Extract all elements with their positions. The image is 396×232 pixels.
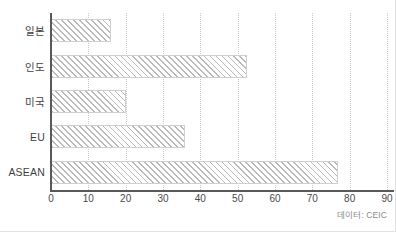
bars-layer [51, 13, 387, 190]
value-tick-label: 20 [120, 193, 131, 204]
category-label: 미국 [0, 84, 45, 119]
gridline [387, 13, 388, 190]
bar [51, 161, 338, 184]
bar [51, 19, 111, 42]
category-label: 인도 [0, 48, 45, 83]
category-label: ASEAN [0, 155, 45, 190]
bar-row [51, 84, 387, 119]
bar-row [51, 13, 387, 48]
value-tick-label: 90 [381, 193, 392, 204]
value-tick-label: 0 [48, 193, 54, 204]
source-note: 데이터: CEIC [337, 208, 387, 220]
value-tick-label: 70 [307, 193, 318, 204]
value-axis-line [51, 190, 394, 192]
value-tick-label: 60 [269, 193, 280, 204]
category-label: 일본 [0, 13, 45, 48]
bar [51, 125, 185, 148]
bar [51, 90, 126, 113]
value-tick-label: 30 [157, 193, 168, 204]
bar [51, 55, 247, 78]
value-tick-label: 80 [344, 193, 355, 204]
value-axis-tick-labels: 0102030405060708090 [0, 193, 396, 209]
bar-row [51, 155, 387, 190]
value-tick-label: 50 [232, 193, 243, 204]
value-tick-label: 40 [195, 193, 206, 204]
category-axis-line [50, 13, 52, 192]
bar-row [51, 48, 387, 83]
category-axis-labels: 일본인도미국EUASEAN [0, 13, 45, 190]
bar-row [51, 119, 387, 154]
category-label: EU [0, 119, 45, 154]
bar-chart-figure: 일본인도미국EUASEAN 0102030405060708090 데이터: C… [0, 0, 396, 232]
value-tick-label: 10 [83, 193, 94, 204]
